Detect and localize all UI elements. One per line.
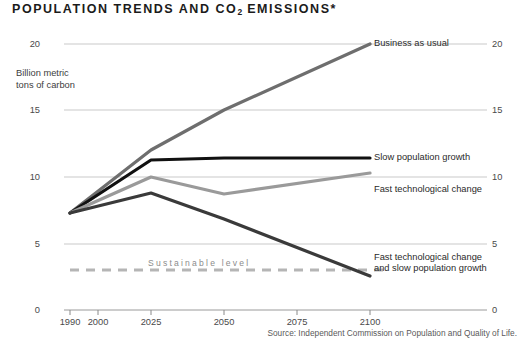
y-tick-left-0: 0 bbox=[18, 305, 40, 315]
series-label-slow-population-growth: Slow population growth bbox=[374, 152, 470, 163]
series-label-fast-technological-change: Fast technological change bbox=[374, 184, 482, 195]
x-tick-2050: 2050 bbox=[204, 317, 244, 327]
chart-container: POPULATION TRENDS AND CO2 EMISSIONS* Bil… bbox=[0, 0, 529, 349]
y-tick-left-10: 10 bbox=[18, 172, 40, 182]
y-tick-right-10: 10 bbox=[492, 172, 514, 182]
sustainable-level-label: Sustainable level bbox=[148, 258, 250, 268]
x-tick-2025: 2025 bbox=[131, 317, 171, 327]
y-tick-right-5: 5 bbox=[492, 239, 514, 249]
source-note: Source: Independent Commission on Popula… bbox=[267, 328, 517, 338]
y-tick-left-5: 5 bbox=[18, 239, 40, 249]
y-tick-left-15: 15 bbox=[18, 105, 40, 115]
y-tick-right-15: 15 bbox=[492, 105, 514, 115]
y-tick-right-0: 0 bbox=[492, 305, 514, 315]
series-line-business-as-usual bbox=[70, 44, 370, 213]
y-tick-right-20: 20 bbox=[492, 39, 514, 49]
x-tick-2000: 2000 bbox=[78, 317, 118, 327]
x-tick-2075: 2075 bbox=[277, 317, 317, 327]
series-line-slow-population-growth bbox=[70, 158, 370, 213]
x-axis-ticks bbox=[70, 310, 370, 315]
series-label-fast-tech-and-slow-pop: Fast technological change and slow popul… bbox=[374, 252, 487, 274]
series-label-business-as-usual: Business as usual bbox=[374, 38, 449, 49]
chart-plot-area bbox=[0, 0, 529, 349]
x-tick-2100: 2100 bbox=[350, 317, 390, 327]
y-tick-left-20: 20 bbox=[18, 39, 40, 49]
